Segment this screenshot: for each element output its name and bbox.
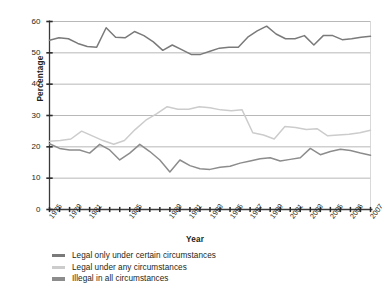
chart-legend: Legal only under certain circumstancesLe… <box>52 250 352 285</box>
legend-item-2[interactable]: Illegal in all circumstances <box>52 273 352 285</box>
legend-label: Legal under any circumstances <box>72 263 187 272</box>
legend-item-1[interactable]: Legal under any circumstances <box>52 262 352 274</box>
y-tick-10: 10 <box>19 174 41 182</box>
y-tick-20: 20 <box>19 143 41 151</box>
y-tick-50: 50 <box>19 49 41 57</box>
x-axis-title: Year <box>150 235 240 244</box>
legend-item-0[interactable]: Legal only under certain circumstances <box>52 250 352 262</box>
legend-swatch-icon <box>52 266 65 269</box>
y-tick-0: 0 <box>19 206 41 214</box>
chart-figure: Percentage Year 0102030405060 1975197919… <box>0 0 386 293</box>
legend-swatch-icon <box>52 254 65 257</box>
y-tick-40: 40 <box>19 80 41 88</box>
legend-label: Illegal in all circumstances <box>72 274 169 283</box>
y-tick-30: 30 <box>19 112 41 120</box>
legend-swatch-icon <box>52 277 65 280</box>
legend-label: Legal only under certain circumstances <box>72 251 216 260</box>
y-tick-60: 60 <box>19 18 41 26</box>
